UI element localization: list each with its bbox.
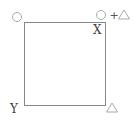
- diagram-canvas: + X Y: [0, 0, 137, 123]
- plus-sign: +: [110, 9, 119, 22]
- circle-top-right-icon: [97, 11, 106, 20]
- triangle-bottom-right-icon: [107, 103, 118, 112]
- triangle-top-right-icon: [119, 10, 130, 19]
- label-y: Y: [9, 102, 19, 116]
- label-x: X: [93, 23, 102, 37]
- circle-top-left-icon: [13, 13, 22, 22]
